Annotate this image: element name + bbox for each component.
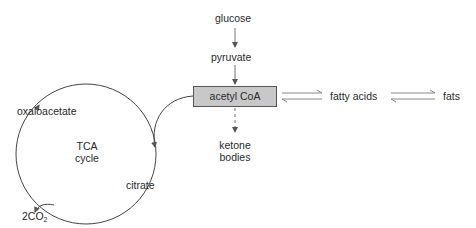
citrate-label: citrate [126,179,155,191]
ketone-line2: bodies [215,151,255,163]
glucose-label: glucose [215,12,251,24]
pyruvate-label: pyruvate [211,51,251,63]
co2-text: 2CO [22,210,44,222]
fatty-acids-label: fatty acids [330,90,377,102]
tca-cycle-label: TCA cycle [67,140,107,164]
oxaloacetate-label: oxaloacetate [17,105,77,117]
tca-line2: cycle [67,152,107,164]
arrow-acetylcoa-into-cycle [154,96,193,147]
co2-subscript: 2 [44,216,48,223]
acetyl-coa-box: acetyl CoA [193,86,277,107]
ketone-line1: ketone [215,139,255,151]
ketone-bodies-label: ketone bodies [215,139,255,163]
fats-label: fats [443,90,460,102]
co2-label: 2CO2 [22,210,48,226]
tca-line1: TCA [67,140,107,152]
